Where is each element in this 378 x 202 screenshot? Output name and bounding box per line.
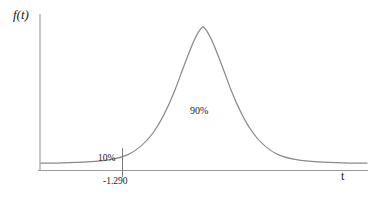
left-tail-area-label: 10% — [98, 154, 115, 164]
density-curve — [41, 27, 367, 164]
central-area-label: 90% — [190, 106, 208, 116]
x-axis-label: t — [341, 170, 344, 182]
critical-value-label: -1.290 — [103, 177, 128, 187]
plot-canvas — [0, 0, 378, 202]
y-axis-label: f(t) — [13, 8, 29, 21]
t-distribution-figure: f(t) t 10% 90% -1.290 — [0, 0, 378, 202]
